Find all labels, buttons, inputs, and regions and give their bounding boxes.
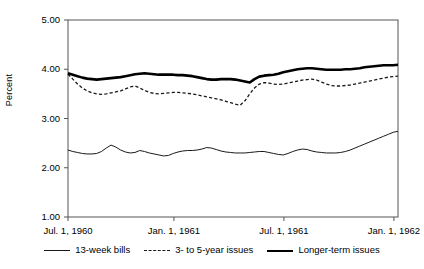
legend-line-dashed-icon [144, 246, 170, 254]
legend-label: 13-week bills [75, 244, 130, 255]
plot-area [0, 0, 424, 269]
legend-label: Longer-term issues [298, 244, 379, 255]
plot-frame [68, 20, 398, 217]
legend-label: 3- to 5-year issues [175, 244, 253, 255]
legend-item-13-week-bills[interactable]: 13-week bills [44, 244, 130, 255]
chart-legend: 13-week bills 3- to 5-year issues Longer… [0, 244, 424, 255]
legend-item-3-to-5-year-issues[interactable]: 3- to 5-year issues [144, 244, 253, 255]
series-line-longer-term-issues [68, 65, 398, 83]
series-line-13-week-bills [68, 131, 398, 156]
legend-line-thin-solid-icon [44, 246, 70, 254]
legend-item-longer-term-issues[interactable]: Longer-term issues [267, 244, 379, 255]
legend-line-thick-solid-icon [267, 246, 293, 254]
line-chart: Percent 5.004.003.002.001.00 Jul. 1, 196… [0, 0, 424, 269]
